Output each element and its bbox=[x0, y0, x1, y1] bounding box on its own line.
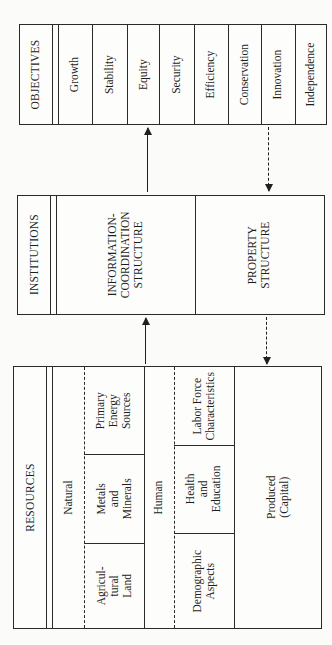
arrowhead-down-icon bbox=[263, 357, 271, 365]
arrow-resources-to-institutions bbox=[145, 318, 146, 364]
objective-innovation: Innovation bbox=[261, 25, 295, 124]
objective-independence: Independence bbox=[295, 25, 326, 124]
natural-metals-and-minerals: Metals and Minerals bbox=[84, 454, 144, 543]
natural-primary-energy-sources: Primary Energy Sources bbox=[84, 367, 144, 454]
human-labor-force-characteristics: Labor Force Characteristics bbox=[174, 367, 234, 445]
institutions-header: INSTITUTIONS bbox=[18, 196, 50, 314]
objective-efficiency: Efficiency bbox=[194, 25, 228, 124]
resources-title: RESOURCES bbox=[23, 463, 36, 531]
objectives-box: OBJECTIVES Growth Stability Equity Secur… bbox=[19, 24, 327, 125]
information-coordination-structure: INFORMATION- COORDINATION STRUCTURE bbox=[56, 196, 195, 314]
arrowhead-down-icon bbox=[265, 184, 273, 192]
resources-box: RESOURCES Natural Primary Energy Sources… bbox=[13, 366, 322, 629]
arrow-institutions-to-objectives bbox=[147, 128, 148, 192]
objective-growth: Growth bbox=[58, 25, 92, 124]
arrowhead-up-icon bbox=[142, 317, 150, 325]
objective-security: Security bbox=[159, 25, 194, 124]
natural-agricultural-land: Agricul- tural Land bbox=[84, 543, 144, 629]
objectives-header: OBJECTIVES bbox=[20, 25, 52, 124]
objective-equity: Equity bbox=[127, 25, 159, 124]
produced-capital: Produced (Capital) bbox=[234, 367, 321, 628]
institutions-box: INSTITUTIONS INFORMATION- COORDINATION S… bbox=[17, 195, 325, 315]
objectives-title: OBJECTIVES bbox=[29, 40, 42, 110]
objective-stability: Stability bbox=[92, 25, 127, 124]
human-health-and-education: Health and Education bbox=[174, 445, 234, 533]
objective-conservation: Conservation bbox=[228, 25, 261, 124]
arrow-institutions-to-resources bbox=[266, 317, 267, 364]
human-demographic-aspects: Demographic Aspects bbox=[174, 533, 234, 629]
resources-header: RESOURCES bbox=[14, 367, 46, 628]
institutions-title: INSTITUTIONS bbox=[27, 215, 40, 296]
human-label: Human bbox=[144, 367, 174, 628]
arrowhead-up-icon bbox=[144, 127, 152, 135]
natural-label: Natural bbox=[52, 367, 84, 628]
property-structure: PROPERTY STRUCTURE bbox=[195, 196, 324, 314]
arrow-objectives-to-institutions bbox=[268, 127, 269, 191]
